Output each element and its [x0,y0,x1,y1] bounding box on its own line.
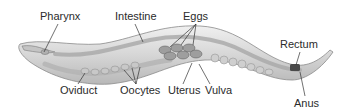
label-intestine: Intestine [115,10,157,22]
label-eggs: Eggs [183,10,208,22]
label-oocytes: Oocytes [120,84,160,96]
label-anus: Anus [294,97,319,109]
label-pharynx: Pharynx [40,10,80,22]
label-oviduct: Oviduct [60,84,97,96]
label-vulva: Vulva [205,84,232,96]
label-rectum: Rectum [280,38,318,50]
label-uterus: Uterus [168,84,200,96]
rectum-organ [290,64,300,71]
